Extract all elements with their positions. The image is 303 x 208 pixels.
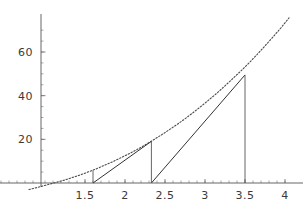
series-curve [29,18,289,190]
y-tick-label: 60 [18,46,33,59]
y-tick-label: 20 [18,133,33,146]
x-tick-label: 2.5 [156,189,175,202]
x-tick-label: 3.5 [236,189,255,202]
series-secant-left [93,141,151,183]
y-tick-label: 40 [18,90,33,103]
major-ticks-group [41,52,285,183]
series-secant-right [151,75,245,183]
x-tick-label: 2 [121,189,129,202]
y-tick-labels-group: 204060 [18,46,33,146]
x-tick-label: 3 [201,189,209,202]
chart-svg: 1.522.533.54 204060 [0,0,303,208]
chart-plot-area: 1.522.533.54 204060 [0,0,303,208]
x-tick-label: 1.5 [76,189,95,202]
series-group [29,18,289,190]
x-tick-labels-group: 1.522.533.54 [76,189,289,202]
x-tick-label: 4 [281,189,289,202]
